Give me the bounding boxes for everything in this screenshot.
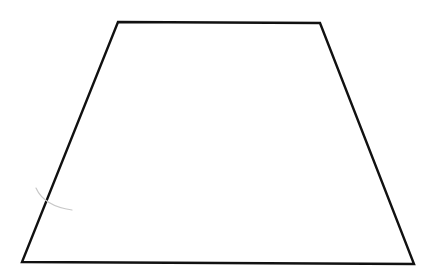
diagram-canvas bbox=[0, 0, 445, 278]
trapezoid-shape bbox=[22, 22, 414, 264]
trapezoid-figure bbox=[0, 0, 445, 278]
